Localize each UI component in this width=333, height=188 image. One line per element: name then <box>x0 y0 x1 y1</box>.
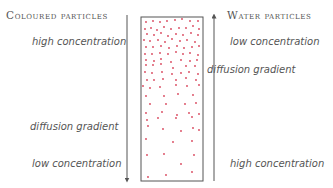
particle-dot <box>159 86 161 88</box>
particle-dot <box>198 129 200 131</box>
particle-dot <box>193 154 195 156</box>
particle-dot <box>167 53 169 55</box>
particle-dot <box>149 87 151 89</box>
particle-dot <box>192 127 194 129</box>
particle-dot <box>181 18 183 20</box>
particle-dot <box>151 72 153 74</box>
particle-dot <box>160 58 162 60</box>
particle-dot <box>153 79 155 81</box>
particle-dot <box>177 93 179 95</box>
right-bottom-label: high concentration <box>230 158 324 169</box>
particle-dot <box>195 79 197 81</box>
particle-dot <box>198 113 200 115</box>
particle-dot <box>145 138 147 140</box>
particle-dot <box>171 38 173 40</box>
particle-dot <box>147 176 149 178</box>
particle-dot <box>145 46 147 48</box>
particle-dot <box>194 41 196 43</box>
particle-dot <box>180 59 182 61</box>
particle-dot <box>191 116 193 118</box>
particle-dot <box>189 60 191 62</box>
particle-dot <box>163 153 165 155</box>
particle-dot <box>175 117 177 119</box>
particle-dot <box>178 27 180 29</box>
particle-dot <box>144 28 146 30</box>
particle-dot <box>152 20 154 22</box>
particle-dot <box>161 111 163 113</box>
left-bottom-label: low concentration <box>32 158 122 169</box>
particle-dot <box>176 45 178 47</box>
particle-dot <box>156 29 158 31</box>
particle-dot <box>160 63 162 65</box>
particle-dot <box>182 34 184 36</box>
particle-dot <box>197 20 199 22</box>
particle-dot <box>184 103 186 105</box>
particle-dot <box>182 53 184 55</box>
particle-dot <box>170 61 172 63</box>
particle-dot <box>161 71 163 73</box>
particle-dot <box>149 103 151 105</box>
particle-dot <box>163 26 165 28</box>
particle-dot <box>180 72 182 74</box>
particle-dot <box>194 65 196 67</box>
particle-dot <box>149 40 151 42</box>
particle-dot <box>175 84 177 86</box>
particle-dot <box>159 21 161 23</box>
particle-dot <box>162 78 164 80</box>
particle-dot <box>160 32 162 34</box>
particle-dot <box>175 79 177 81</box>
particle-dot <box>165 174 167 176</box>
particle-dot <box>174 19 176 21</box>
particle-dot <box>153 34 155 36</box>
particle-dot <box>189 52 191 54</box>
particle-dot <box>152 46 154 48</box>
particle-dot <box>180 130 182 132</box>
particle-dot <box>153 60 155 62</box>
particle-dot <box>165 103 167 105</box>
particle-dot <box>144 71 146 73</box>
particle-dot <box>179 40 181 42</box>
particle-dot <box>146 33 148 35</box>
coloured-particles <box>142 18 200 178</box>
particle-dot <box>183 47 185 49</box>
particle-dot <box>198 45 200 47</box>
particle-dot <box>167 35 169 37</box>
particle-dot <box>160 45 162 47</box>
particle-dot <box>191 46 193 48</box>
particle-dot <box>164 41 166 43</box>
particle-dot <box>143 39 145 41</box>
particle-dot <box>188 112 190 114</box>
particle-dot <box>147 125 149 127</box>
right-middle-label: diffusion gradient <box>207 64 295 75</box>
particle-dot <box>145 95 147 97</box>
particle-dot <box>192 94 194 96</box>
particle-dot <box>186 39 188 41</box>
right-title: Water particles <box>227 9 311 21</box>
particle-dot <box>191 140 193 142</box>
particle-dot <box>146 154 148 156</box>
particle-dot <box>188 71 190 73</box>
particle-dot <box>175 51 177 53</box>
particle-dot <box>163 95 165 97</box>
particle-dot <box>171 73 173 75</box>
particle-dot <box>197 73 199 75</box>
particle-dot <box>185 65 187 67</box>
particle-dot <box>166 20 168 22</box>
particle-dot <box>190 32 192 34</box>
particle-dot <box>198 84 200 86</box>
right-top-label: low concentration <box>230 36 320 47</box>
particle-dot <box>198 28 200 30</box>
particle-dot <box>197 34 199 36</box>
particle-dot <box>150 27 152 29</box>
particle-dot <box>197 54 199 56</box>
particle-dot <box>185 77 187 79</box>
particle-dot <box>168 47 170 49</box>
particle-dot <box>145 112 147 114</box>
particle-dot <box>196 59 198 61</box>
particle-dot <box>180 163 182 165</box>
particle-dot <box>195 102 197 104</box>
particle-dot <box>142 85 144 87</box>
particle-dot <box>189 20 191 22</box>
particle-dot <box>145 21 147 23</box>
particle-dot <box>146 119 148 121</box>
